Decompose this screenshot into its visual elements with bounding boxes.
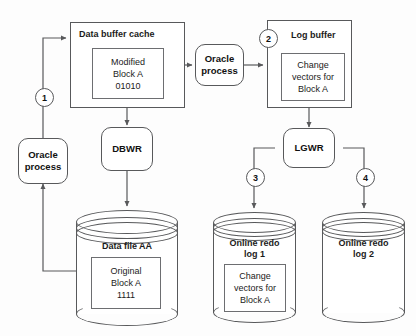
oracle-process-top-box: Oracle process [195,44,244,86]
oracle-process-left-line-1: Oracle [25,149,61,161]
redo-log-2-title: Online redo log 2 [322,238,405,260]
original-block-line-3: 1111 [117,289,135,301]
oracle-process-top-line-1: Oracle [201,53,237,65]
step-marker-2: 2 [259,29,278,48]
diagram-canvas: Data buffer cache Modified Block A 01010… [0,0,416,336]
data-file-cylinder: Data file AA Original Block A 1111 [76,210,178,320]
redo-log-1-change-vectors-box: Change vectors for Block A [224,264,286,312]
dbwr-box: DBWR [101,127,153,171]
redo-log-1-title-line-2: log 1 [213,249,296,260]
oracle-process-left-box: Oracle process [18,138,68,184]
redo-log-1-cylinder: Online redo log 1 Change vectors for Blo… [213,212,296,320]
redo-log-1-cv-line-2: vectors for [234,282,276,294]
log-buffer-cv-line-2: vectors for [292,71,334,83]
modified-block-a-box: Modified Block A 01010 [92,48,164,99]
redo-log-2-title-line-1: Online redo [322,238,405,249]
log-buffer-title: Log buffer [291,30,336,40]
data-file-title: Data file AA [76,241,178,252]
original-block-line-2: Block A [111,277,141,289]
oracle-process-top-line-2: process [201,65,237,77]
redo-log-2-cylinder-bottom [322,302,405,323]
redo-log-1-cv-line-1: Change [239,270,271,282]
modified-block-a-text: Modified Block A 01010 [93,49,163,98]
redo-log-2-title-line-2: log 2 [322,249,405,260]
step-marker-1: 1 [35,88,54,107]
modified-block-line-2: Block A [113,68,143,80]
log-buffer-box: Log buffer Change vectors for Block A [267,20,352,108]
oracle-process-left-line-2: process [25,161,61,173]
log-buffer-change-vectors-box: Change vectors for Block A [281,53,345,101]
redo-log-1-change-vectors-text: Change vectors for Block A [225,265,285,311]
original-block-a-text: Original Block A 1111 [92,258,160,308]
step-marker-4: 4 [356,168,375,187]
lgwr-label: LGWR [294,142,323,154]
log-buffer-change-vectors-text: Change vectors for Block A [282,54,344,100]
original-block-a-box: Original Block A 1111 [91,257,161,309]
original-block-line-1: Original [110,265,141,277]
redo-log-2-cylinder: Online redo log 2 [322,212,405,320]
modified-block-line-3: 01010 [115,80,140,92]
data-buffer-cache-box: Data buffer cache Modified Block A 01010 [70,22,185,108]
lgwr-box: LGWR [283,128,335,168]
log-buffer-cv-line-1: Change [297,59,329,71]
oracle-process-top-text: Oracle process [201,53,237,77]
step-marker-3: 3 [246,168,265,187]
redo-log-1-cv-line-3: Block A [240,294,270,306]
redo-log-1-title-line-1: Online redo [213,238,296,249]
log-buffer-cv-line-3: Block A [298,83,328,95]
redo-log-1-title: Online redo log 1 [213,238,296,260]
modified-block-line-1: Modified [111,56,145,68]
oracle-process-left-text: Oracle process [25,149,61,173]
data-buffer-cache-title: Data buffer cache [79,29,155,39]
dbwr-label: DBWR [112,143,142,155]
